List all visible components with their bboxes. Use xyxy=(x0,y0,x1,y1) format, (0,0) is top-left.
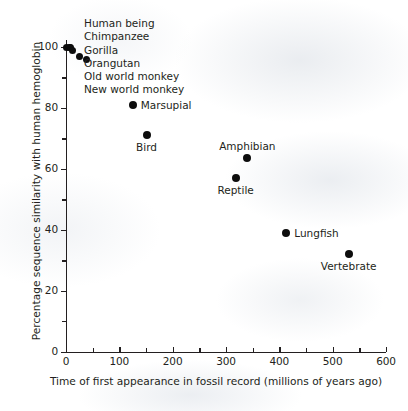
x-tick-label-100: 100 xyxy=(99,355,139,367)
x-tick-450 xyxy=(306,348,307,352)
x-tick-label-0: 0 xyxy=(46,355,86,367)
primate-label-orangutan: Orangutan xyxy=(84,57,184,70)
point-label-amphibian: Amphibian xyxy=(219,140,275,152)
primate-label-new-world-monkey: New world monkey xyxy=(84,83,184,96)
y-tick-90 xyxy=(62,77,66,78)
primate-label-human-being: Human being xyxy=(84,17,184,30)
x-tick-label-600: 600 xyxy=(366,355,406,367)
data-point-lungfish xyxy=(282,229,290,237)
y-tick-60 xyxy=(61,169,66,170)
y-tick-20 xyxy=(61,291,66,292)
x-tick-label-200: 200 xyxy=(153,355,193,367)
y-tick-50 xyxy=(62,199,66,200)
primate-label-gorilla: Gorilla xyxy=(84,44,184,57)
x-tick-500 xyxy=(333,347,334,352)
point-label-reptile: Reptile xyxy=(217,184,253,196)
x-tick-100 xyxy=(119,347,120,352)
data-point-vertebrate xyxy=(345,250,353,258)
y-tick-10 xyxy=(62,321,66,322)
primate-label-old-world-monkey: Old world monkey xyxy=(84,70,184,83)
x-tick-350 xyxy=(253,348,254,352)
data-point-amphibian xyxy=(243,154,251,162)
x-tick-250 xyxy=(199,348,200,352)
data-point-bird xyxy=(143,131,151,139)
x-tick-400 xyxy=(279,347,280,352)
point-label-lungfish: Lungfish xyxy=(294,227,338,239)
y-tick-0 xyxy=(61,352,66,353)
x-tick-550 xyxy=(359,348,360,352)
y-tick-40 xyxy=(61,230,66,231)
x-tick-label-400: 400 xyxy=(259,355,299,367)
x-tick-label-500: 500 xyxy=(313,355,353,367)
data-point-old-world-monkey xyxy=(76,53,83,60)
x-tick-50 xyxy=(93,348,94,352)
y-tick-80 xyxy=(61,108,66,109)
scatter-chart-figure: 020406080100 0100200300400500600 Percent… xyxy=(0,0,408,411)
primate-label-chimpanzee: Chimpanzee xyxy=(84,30,184,43)
y-tick-70 xyxy=(62,138,66,139)
point-label-marsupial: Marsupial xyxy=(141,99,192,111)
x-tick-200 xyxy=(173,347,174,352)
y-axis-line xyxy=(66,40,67,353)
data-point-orangutan xyxy=(69,47,76,54)
data-point-reptile xyxy=(232,174,240,182)
x-tick-600 xyxy=(386,347,387,352)
data-point-marsupial xyxy=(129,101,137,109)
x-tick-300 xyxy=(226,347,227,352)
x-axis-title: Time of first appearance in fossil recor… xyxy=(36,375,396,387)
point-label-bird: Bird xyxy=(136,141,157,153)
y-tick-30 xyxy=(62,260,66,261)
y-axis-title: Percentage sequence similarity with huma… xyxy=(30,41,42,341)
x-tick-label-300: 300 xyxy=(206,355,246,367)
point-label-vertebrate: Vertebrate xyxy=(321,260,377,272)
primate-label-stack: Human beingChimpanzeeGorillaOrangutanOld… xyxy=(84,17,184,97)
x-tick-150 xyxy=(146,348,147,352)
